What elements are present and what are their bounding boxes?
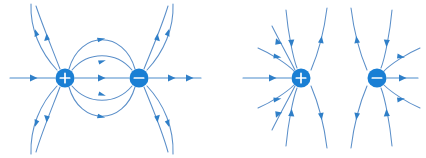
field-line-upper-inner [72,56,132,70]
field-line-lower-right-wide [147,86,173,154]
arrow-centre-lower-left [318,112,324,120]
field-line-path [381,10,392,68]
arrow-plus-upper-left-steep [288,40,294,47]
field-line-path [31,4,57,70]
arrow-plus-upper-left [273,53,281,58]
field-line-upper-left-wide [31,4,57,70]
left-negative-charge[interactable] [130,69,149,88]
arrow-right-axis-right [399,75,407,82]
arrow-axis-right-outer [186,75,194,82]
field-line-lower-middle [69,87,135,118]
field-line-path [147,4,173,70]
field-line-centre-upper-right [351,8,367,70]
field-line-minus-upper-right-steep [381,10,392,68]
field-line-path [258,85,294,108]
arrow-axis-middle [98,75,106,82]
arrow-upper-right-wide [165,29,170,37]
field-line-path [69,40,135,69]
field-line-minus-upper-right [384,48,420,71]
field-line-centre-upper-left [311,8,327,70]
field-line-centre-lower-right [351,86,367,148]
field-line-path [69,87,135,116]
field-line-path [311,8,327,70]
axis-field-line-left [243,75,291,82]
arrow-centre-upper-right [354,36,360,44]
field-line-path [351,8,367,70]
field-line-path [286,10,297,68]
arrow-axis-left [30,75,38,82]
arrow-plus-lower-left-steep [288,109,294,116]
left-positive-charge[interactable] [56,69,75,88]
field-line-upper-right-wide [147,4,173,70]
right-panel-configuration [243,8,420,148]
field-line-lower-inner [72,86,132,100]
arrow-upper-right-outer [154,34,160,42]
arrow-plus-lower-left [273,98,281,103]
field-line-path [384,85,420,108]
field-line-minus-lower-right [384,85,420,108]
arrow-axis-right-inner [168,75,176,82]
field-line-centre-lower-left [311,86,327,148]
field-line-plus-upper-left-steep [286,10,297,68]
right-positive-charge[interactable] [292,69,311,88]
arrow-lower-right-wide [165,119,170,127]
arrow-centre-lower-right [354,112,360,120]
arrow-minus-upper-right-steep [384,40,390,47]
axis-field-line-horizontal [10,75,201,82]
arrow-upper-inner [98,60,106,64]
field-line-path [258,48,294,71]
arrow-right-axis-left [269,75,277,82]
axis-field-line-right [387,75,418,82]
field-line-path [384,48,420,71]
arrow-minus-lower-right-steep [384,109,390,116]
arrow-upper-left-wide [35,29,40,37]
arrow-lower-inner [98,91,106,95]
field-line-path [72,56,132,70]
field-line-plus-upper-left [258,48,294,71]
field-lines-figure [0,0,426,158]
arrow-lower-left-wide [35,119,40,127]
field-line-path [72,86,132,100]
field-line-path [286,88,297,146]
field-line-lower-left-wide [31,86,57,154]
field-line-minus-lower-right-steep [381,88,392,146]
field-line-plus-lower-left-steep [286,88,297,146]
field-line-path [311,86,327,148]
field-line-plus-lower-left [258,85,294,108]
field-line-path [381,88,392,146]
field-line-path [351,86,367,148]
figure-root [0,0,426,158]
right-negative-charge[interactable] [368,69,387,88]
field-line-upper-middle [69,38,135,69]
left-panel-dipole [10,4,201,154]
arrow-centre-upper-left [318,36,324,44]
